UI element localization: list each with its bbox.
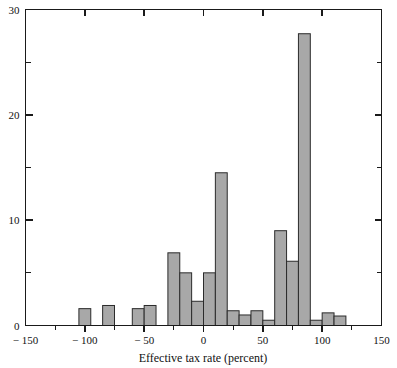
histogram-bar [79,309,91,326]
histogram-bar [251,311,263,326]
histogram-bar [227,311,239,326]
histogram-bar [168,253,180,326]
x-tick-label: − 50 [134,334,154,346]
x-axis-tick-labels: − 150− 100− 50050100150 [13,334,390,346]
histogram-bar [144,305,156,325]
histogram-bar [192,301,204,325]
y-tick-label: 0 [14,320,20,332]
y-tick-label: 10 [9,214,21,226]
chart-canvas: − 150− 100− 50050100150 0102030 Effectiv… [0,0,397,368]
bars-group [79,34,346,326]
x-tick-label: 100 [314,334,331,346]
histogram-bar [239,315,251,326]
histogram-bar [334,316,346,325]
histogram-bar [103,305,115,325]
histogram-bar [275,231,287,326]
histogram-bar [204,273,216,326]
x-tick-label: − 100 [72,334,98,346]
histogram-bar [322,313,334,326]
histogram-bar [287,261,299,325]
histogram-figure: − 150− 100− 50050100150 0102030 Effectiv… [0,0,397,368]
x-tick-label: 0 [201,334,207,346]
histogram-bar [180,273,192,326]
x-tick-label: − 150 [13,334,39,346]
x-tick-label: 150 [373,334,390,346]
y-tick-label: 20 [9,109,21,121]
histogram-bar [215,173,227,326]
x-tick-label: 50 [257,334,269,346]
y-axis-tick-labels: 0102030 [9,4,21,332]
y-tick-label: 30 [9,4,21,16]
x-axis-title: Effective tax rate (percent) [139,351,268,365]
histogram-bar [298,34,310,326]
histogram-bar [132,309,144,326]
